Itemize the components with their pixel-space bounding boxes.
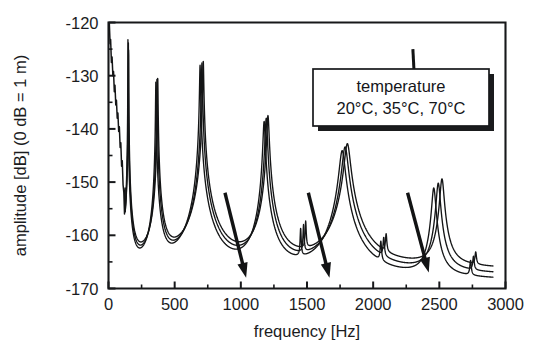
arrow-2400hz-head: [420, 257, 430, 273]
arrow-1000hz-head: [237, 262, 247, 278]
x-tick-label: 1500: [289, 295, 326, 313]
amplitude-frequency-chart: 050010001500200025003000-170-160-150-140…: [0, 0, 550, 353]
y-tick-label: -120: [65, 14, 98, 32]
arrow-1000hz-shaft: [225, 193, 243, 266]
legend-entries: 20°C, 35°C, 70°C: [337, 99, 466, 117]
x-tick-label: 2000: [355, 295, 392, 313]
axis-tick-labels: 050010001500200025003000-170-160-150-140…: [65, 14, 523, 313]
y-tick-label: -150: [65, 173, 98, 191]
arrow-1650hz-shaft: [308, 193, 326, 266]
spectrum-curves: [109, 23, 493, 278]
plot-border: [109, 23, 506, 289]
y-tick-label: -130: [65, 67, 98, 85]
y-tick-label: -140: [65, 120, 98, 138]
axis-ticks: [109, 23, 506, 289]
x-tick-label: 1000: [222, 295, 259, 313]
y-axis-title: amplitude [dB] (0 dB = 1 m): [11, 55, 29, 256]
x-tick-label: 3000: [487, 295, 524, 313]
legend-title: temperature: [357, 77, 446, 95]
y-tick-label: -160: [65, 226, 98, 244]
arrow-1650hz-head: [321, 262, 331, 278]
x-tick-label: 2500: [421, 295, 458, 313]
arrow-2400hz-shaft: [408, 193, 426, 261]
x-tick-label: 0: [104, 295, 113, 313]
y-tick-label: -170: [65, 280, 98, 298]
x-axis-title: frequency [Hz]: [254, 322, 360, 340]
low-frequency-noise-trace: [109, 23, 125, 215]
legend: temperature20°C, 35°C, 70°C: [313, 69, 494, 131]
axes-frame: [109, 23, 506, 289]
x-tick-label: 500: [161, 295, 189, 313]
